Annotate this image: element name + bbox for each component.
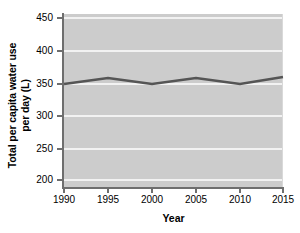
series-line-total-per-capita-water-use xyxy=(64,77,283,84)
y-tick-label-350: 350 xyxy=(13,78,53,89)
x-axis-title: Year xyxy=(63,212,284,224)
chart-figure: Total per capita water use per day (L) 4… xyxy=(0,0,300,233)
x-tick-mark-1990 xyxy=(63,188,65,193)
x-tick-label-2000: 2000 xyxy=(132,194,172,205)
x-tick-mark-1995 xyxy=(107,188,109,193)
y-tick-mark-450 xyxy=(57,17,63,19)
y-tick-label-400: 400 xyxy=(13,45,53,56)
y-tick-mark-200 xyxy=(57,179,63,181)
x-tick-mark-2015 xyxy=(282,188,284,193)
y-tick-label-200: 200 xyxy=(13,174,53,185)
y-tick-mark-300 xyxy=(57,115,63,117)
x-tick-label-2005: 2005 xyxy=(176,194,216,205)
y-tick-mark-350 xyxy=(57,83,63,85)
x-tick-mark-2000 xyxy=(151,188,153,193)
y-tick-label-250: 250 xyxy=(13,143,53,154)
y-tick-mark-250 xyxy=(57,148,63,150)
y-tick-label-300: 300 xyxy=(13,110,53,121)
x-tick-label-1995: 1995 xyxy=(88,194,128,205)
y-axis-line xyxy=(62,13,64,189)
y-tick-mark-400 xyxy=(57,50,63,52)
x-tick-mark-2010 xyxy=(239,188,241,193)
x-tick-label-2015: 2015 xyxy=(263,194,300,205)
x-axis-line xyxy=(62,187,284,189)
x-tick-label-1990: 1990 xyxy=(44,194,84,205)
x-tick-mark-2005 xyxy=(195,188,197,193)
y-tick-label-450: 450 xyxy=(13,12,53,23)
x-tick-label-2010: 2010 xyxy=(220,194,260,205)
